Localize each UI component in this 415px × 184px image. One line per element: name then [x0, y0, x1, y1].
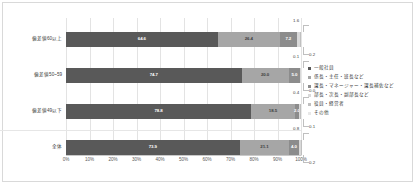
bar-segment: 18.5 [251, 104, 294, 119]
x-axis-tick: 20% [108, 158, 117, 163]
x-axis-tick: 80% [249, 158, 258, 163]
callout-label: 0.1 [309, 125, 315, 129]
legend-item[interactable]: 課長・マネージャー・課長補佐など [308, 82, 412, 91]
legend-swatch-icon [308, 85, 311, 88]
x-axis-tick: 70% [226, 158, 235, 163]
x-axis-tick: 50% [179, 158, 188, 163]
gridline [301, 18, 302, 156]
x-axis-tick: 10% [85, 158, 94, 163]
bar-segment: 73.9 [66, 140, 240, 155]
legend-swatch-icon [308, 94, 311, 97]
callout-label: 0.8 [293, 127, 299, 131]
bar-value-label: 74.7 [150, 73, 158, 77]
legend-item[interactable]: 一般社員 [308, 64, 412, 73]
bar-value-label: 21.1 [260, 145, 268, 149]
bar-segment: 74.7 [66, 68, 242, 83]
legend-label: その他 [314, 111, 329, 116]
stacked-bar-chart: 64.626.47.274.720.05.078.818.52.073.921.… [0, 0, 415, 184]
callout-leader-line [303, 119, 309, 127]
plot-area: 64.626.47.274.720.05.078.818.52.073.921.… [66, 18, 301, 156]
callout-leader-line [303, 47, 309, 55]
bar-row: 78.818.52.0 [66, 104, 301, 119]
bar-value-label: 18.5 [269, 109, 277, 113]
x-axis-tick: 60% [202, 158, 211, 163]
chart-legend: 一般社員係長・主任・班長など課長・マネージャー・課長補佐など部長・次長・副部長な… [308, 64, 412, 118]
bar-segment: 78.8 [66, 104, 251, 119]
legend-swatch-icon [308, 103, 311, 106]
legend-label: 係長・主任・班長など [314, 75, 364, 80]
bar-row: 64.626.47.2 [66, 32, 301, 47]
legend-swatch-icon [308, 67, 311, 70]
bar-value-label: 64.6 [138, 37, 146, 41]
legend-swatch-icon [308, 112, 311, 115]
bar-segment: 5.0 [289, 68, 301, 83]
bar-segment: 64.6 [66, 32, 218, 47]
callout-leader-line [303, 25, 309, 32]
callout-leader-line [303, 133, 309, 140]
x-axis-tick: 0% [63, 158, 70, 163]
bar-segment: 4.0 [289, 140, 298, 155]
y-axis-label: 偏差値60以上 [4, 37, 62, 42]
bar-value-label: 73.9 [149, 145, 157, 149]
callout-leader-line [303, 155, 309, 163]
legend-label: 役員・経営者 [314, 102, 344, 107]
y-axis-label: 偏差値50~59 [4, 73, 62, 78]
bar-value-label: 26.4 [245, 37, 253, 41]
bar-value-label: 4.0 [291, 145, 297, 149]
bar-segment: 7.2 [280, 32, 297, 47]
y-axis-label: 全体 [4, 145, 62, 150]
bar-value-label: 5.0 [292, 73, 298, 77]
legend-label: 部長・次長・副部長など [314, 93, 369, 98]
callout-label: 0.2 [309, 53, 315, 57]
x-axis-tick: 90% [273, 158, 282, 163]
bar-value-label: 7.2 [285, 37, 291, 41]
legend-label: 課長・マネージャー・課長補佐など [314, 84, 394, 89]
x-axis-baseline [66, 155, 301, 156]
bar-row: 73.921.14.0 [66, 140, 301, 155]
callout-label: 0.1 [293, 55, 299, 59]
legend-item[interactable]: その他 [308, 109, 412, 118]
y-axis-label: 偏差値49以下 [4, 109, 62, 114]
x-axis-tick: 40% [155, 158, 164, 163]
legend-item[interactable]: 係長・主任・班長など [308, 73, 412, 82]
callout-label: 1.6 [293, 19, 299, 23]
bar-row: 74.720.05.0 [66, 68, 301, 83]
x-axis-tick: 30% [132, 158, 141, 163]
bar-segment: 20.0 [242, 68, 289, 83]
bar-value-label: 20.0 [261, 73, 269, 77]
callout-label: 0.4 [293, 91, 299, 95]
callout-label: 0.2 [309, 161, 315, 165]
group-separator [0, 130, 301, 131]
bar-value-label: 78.8 [155, 109, 163, 113]
bar-segment: 26.4 [218, 32, 280, 47]
legend-label: 一般社員 [314, 66, 334, 71]
legend-item[interactable]: 部長・次長・副部長など [308, 91, 412, 100]
legend-swatch-icon [308, 76, 311, 79]
legend-item[interactable]: 役員・経営者 [308, 100, 412, 109]
bar-segment: 21.1 [240, 140, 290, 155]
